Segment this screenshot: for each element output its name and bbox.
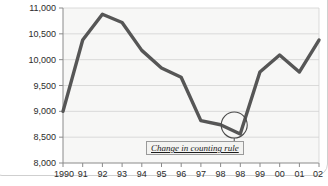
x-tick-label: 95 xyxy=(156,169,166,179)
x-tick-label: 92 xyxy=(97,169,107,179)
x-axis-labels: 1990 91 92 93 94 95 96 97 98 98 99 00 01… xyxy=(54,169,323,179)
x-tick-label: 98 xyxy=(216,169,226,179)
change-in-counting-rule-annotation: Change in counting rule xyxy=(146,141,244,155)
x-tick-label: 91 xyxy=(78,169,88,179)
y-tick-label: 9,000 xyxy=(33,106,56,116)
y-tick-label: 11,000 xyxy=(29,3,56,13)
x-tick-label: 02 xyxy=(313,169,323,179)
x-tick-label: 1990 xyxy=(54,169,74,179)
y-tick-label: 10,500 xyxy=(28,29,56,39)
x-tick-label: 00 xyxy=(275,169,285,179)
x-tick-label: 01 xyxy=(294,169,304,179)
annotation-label: Change in counting rule xyxy=(151,143,239,153)
x-tick-label: 98 xyxy=(235,169,245,179)
x-tick-label: 97 xyxy=(196,169,206,179)
x-tick-label: 99 xyxy=(255,169,265,179)
x-tick-label: 96 xyxy=(176,169,186,179)
y-tick-label: 8,000 xyxy=(33,158,56,168)
x-tick-label: 93 xyxy=(117,169,127,179)
x-tick-label: 94 xyxy=(137,169,147,179)
y-tickmarks xyxy=(59,8,63,163)
y-tick-label: 8,500 xyxy=(33,132,56,142)
x-tickmarks xyxy=(63,163,319,167)
y-axis-labels: 11,000 10,500 10,000 9,500 9,000 8,500 8… xyxy=(28,3,56,168)
y-tick-label: 9,500 xyxy=(33,81,56,91)
y-tick-label: 10,000 xyxy=(28,55,56,65)
